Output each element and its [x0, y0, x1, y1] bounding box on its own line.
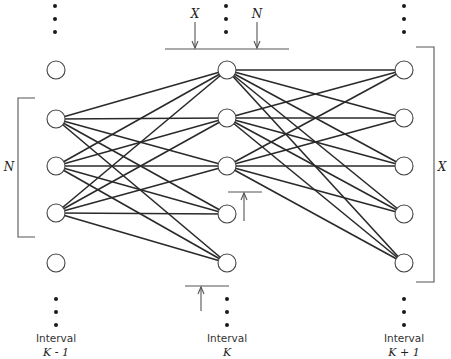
- state-node-interval-k-plus-1-2: [395, 157, 413, 175]
- state-node-interval-k-plus-1-0: [395, 61, 413, 79]
- interval-label-k-plus-1: Interval K + 1: [384, 332, 424, 359]
- state-node-interval-k-0: [218, 61, 236, 79]
- top-arrow-label-n: N: [251, 7, 263, 21]
- state-node-interval-k-plus-1-4: [395, 254, 413, 272]
- state-node-interval-k-minus-1-3: [47, 204, 65, 222]
- left-bracket-label: N: [3, 160, 15, 174]
- state-node-interval-k-1: [218, 109, 236, 127]
- ellipsis-top-right: [402, 4, 406, 34]
- left-bracket: N: [3, 98, 35, 237]
- svg-text:K: K: [222, 346, 232, 359]
- interval-label-k: Interval K: [207, 332, 247, 359]
- svg-text:Interval: Interval: [36, 332, 76, 344]
- edge: [227, 166, 404, 263]
- right-bracket-label: X: [437, 160, 447, 174]
- svg-text:Interval: Interval: [384, 332, 424, 344]
- ellipsis-top-left: [53, 4, 57, 34]
- top-boundary-marker: X N: [165, 7, 289, 49]
- state-node-interval-k-plus-1-3: [395, 205, 413, 223]
- ellipsis-bottom-middle: [225, 297, 229, 327]
- state-node-interval-k-minus-1-4: [47, 254, 65, 272]
- state-node-interval-k-minus-1-1: [47, 110, 65, 128]
- state-node-interval-k-plus-1-1: [395, 109, 413, 127]
- state-node-interval-k-2: [218, 157, 236, 175]
- state-node-interval-k-4: [218, 254, 236, 272]
- svg-text:Interval: Interval: [207, 332, 247, 344]
- interval-label-k-minus-1: Interval K - 1: [36, 332, 76, 359]
- edge: [56, 213, 227, 263]
- bottom-boundary-marker: [185, 286, 229, 311]
- edge: [56, 213, 227, 214]
- edge: [227, 166, 404, 214]
- top-arrow-label-x: X: [190, 7, 200, 21]
- trellis-diagram: X N N X Interval K - 1 Interval K Interv…: [0, 0, 451, 359]
- state-node-interval-k-minus-1-0: [47, 61, 65, 79]
- svg-text:K + 1: K + 1: [387, 346, 419, 359]
- right-bracket: X: [416, 47, 447, 282]
- svg-text:K - 1: K - 1: [42, 346, 69, 359]
- state-node-interval-k-minus-1-2: [47, 157, 65, 175]
- ellipsis-bottom-left: [54, 297, 58, 327]
- ellipsis-top-middle: [224, 4, 228, 34]
- edge: [56, 70, 227, 119]
- state-node-interval-k-3: [218, 205, 236, 223]
- ellipsis-bottom-right: [402, 297, 406, 327]
